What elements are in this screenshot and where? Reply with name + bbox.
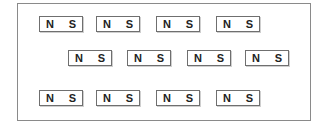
south-pole-label: S — [246, 17, 253, 31]
south-pole-label: S — [69, 17, 76, 31]
north-pole-label: N — [103, 17, 111, 31]
bar-magnet: NS — [187, 50, 231, 66]
south-pole-label: S — [217, 51, 224, 65]
south-pole-label: S — [157, 51, 164, 65]
bar-magnet: NS — [39, 90, 83, 106]
south-pole-label: S — [126, 91, 133, 105]
north-pole-label: N — [46, 17, 54, 31]
bar-magnet: NS — [245, 50, 289, 66]
north-pole-label: N — [134, 51, 142, 65]
bar-magnet: NS — [96, 16, 140, 32]
north-pole-label: N — [223, 17, 231, 31]
south-pole-label: S — [186, 17, 193, 31]
north-pole-label: N — [194, 51, 202, 65]
north-pole-label: N — [46, 91, 54, 105]
bar-magnet: NS — [39, 16, 83, 32]
north-pole-label: N — [163, 17, 171, 31]
bar-magnet: NS — [216, 90, 260, 106]
south-pole-label: S — [126, 17, 133, 31]
bar-magnet: NS — [68, 50, 112, 66]
bar-magnet: NS — [156, 90, 200, 106]
north-pole-label: N — [103, 91, 111, 105]
bar-magnet: NS — [96, 90, 140, 106]
south-pole-label: S — [275, 51, 282, 65]
bar-magnet: NS — [127, 50, 171, 66]
north-pole-label: N — [252, 51, 260, 65]
north-pole-label: N — [223, 91, 231, 105]
south-pole-label: S — [98, 51, 105, 65]
north-pole-label: N — [75, 51, 83, 65]
bar-magnet: NS — [156, 16, 200, 32]
south-pole-label: S — [186, 91, 193, 105]
south-pole-label: S — [246, 91, 253, 105]
bar-magnet: NS — [216, 16, 260, 32]
north-pole-label: N — [163, 91, 171, 105]
south-pole-label: S — [69, 91, 76, 105]
